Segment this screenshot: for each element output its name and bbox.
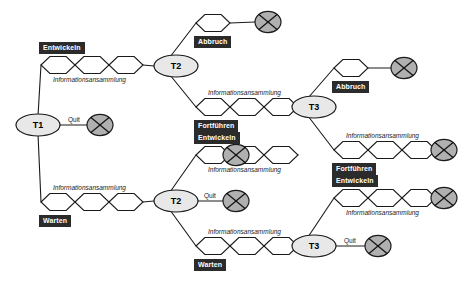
edge-line	[143, 201, 154, 202]
edge-label-informationsansammlung: Informationsansammlung	[53, 76, 126, 83]
terminal-node-crossed-circle[interactable]	[365, 235, 391, 256]
decision-node-t3[interactable]: T3	[292, 96, 336, 118]
hexagon-chain	[334, 142, 436, 159]
decision-node-t1[interactable]: T1	[16, 114, 60, 136]
edge-label-informationsansammlung: Informationsansammlung	[346, 209, 419, 216]
hexagon-chain	[196, 238, 298, 255]
edge-label-informationsansammlung: Informationsansammlung	[208, 166, 281, 173]
label-box-abbruch: Abbruch	[332, 81, 369, 93]
decision-node-t3[interactable]: T3	[292, 235, 336, 257]
decision-node-label: T2	[171, 61, 182, 71]
label-box-warten: Warten	[39, 215, 71, 227]
label-box-abbruch: Abbruch	[194, 36, 231, 48]
branch-label-quit: Quit	[68, 116, 80, 123]
edge-line	[38, 65, 41, 116]
edge-line	[308, 116, 334, 150]
branch-label-quit: Quit	[344, 237, 356, 244]
edge-line	[308, 198, 334, 237]
edge-line	[170, 23, 196, 57]
label-box-entwickeln: Entwickeln	[39, 42, 85, 54]
label-box-entwickeln: Entwickeln	[194, 132, 240, 144]
edge-label-informationsansammlung: Informationsansammlung	[208, 89, 281, 96]
label-box-entwickeln: Entwickeln	[332, 175, 378, 187]
edge-line	[170, 75, 196, 107]
hexagon-chain	[41, 57, 143, 74]
edge-line	[143, 65, 154, 66]
decision-node-label: T3	[309, 102, 320, 112]
decision-node-t2[interactable]: T2	[154, 55, 198, 77]
hexagon-chain	[334, 190, 436, 207]
decision-node-label: T2	[171, 196, 182, 206]
hexagon-chain	[196, 15, 230, 32]
hexagon-chain	[41, 194, 143, 211]
decision-node-label: T1	[33, 120, 44, 130]
edge-line	[308, 68, 334, 98]
branch-label-quit: Quit	[204, 192, 216, 199]
edge-label-informationsansammlung: Informationsansammlung	[208, 228, 281, 235]
hexagon-chain	[196, 99, 298, 116]
terminal-node-crossed-circle[interactable]	[431, 187, 457, 208]
edge-line	[170, 210, 196, 246]
diagram-canvas: T1T2T2T3T3 EntwickelnAbbruchFortführenEn…	[0, 0, 471, 281]
decision-node-t2[interactable]: T2	[154, 190, 198, 212]
label-box-warten: Warten	[194, 259, 226, 271]
edge-line	[230, 22, 255, 23]
terminal-node-crossed-circle[interactable]	[431, 139, 457, 160]
terminal-node-crossed-circle[interactable]	[391, 57, 417, 78]
edge-label-informationsansammlung: Informationsansammlung	[346, 132, 419, 139]
edge-label-informationsansammlung: Informationsansammlung	[53, 184, 126, 191]
terminal-node-crossed-circle[interactable]	[223, 190, 249, 211]
terminal-node-crossed-circle[interactable]	[87, 114, 113, 135]
edge-line	[170, 155, 196, 192]
edge-line	[38, 134, 41, 202]
label-box-fortfhren: Fortführen	[332, 163, 376, 175]
decision-node-label: T3	[309, 241, 320, 251]
terminal-node-crossed-circle[interactable]	[255, 11, 281, 32]
label-box-fortfhren: Fortführen	[194, 120, 238, 132]
terminal-node-crossed-circle[interactable]	[223, 144, 249, 165]
hexagon-chain	[334, 60, 368, 77]
